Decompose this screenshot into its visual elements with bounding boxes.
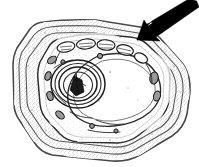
arrow-body (137, 0, 199, 41)
figure-root: Plant cell cross-section diagram (0, 0, 199, 167)
small-vesicle (97, 53, 102, 58)
nucleus (51, 60, 105, 108)
vacuole-speck (138, 100, 139, 101)
vacuole-speck (127, 87, 128, 88)
small-vesicle (90, 124, 95, 129)
plant-cell-diagram: Plant cell cross-section diagram (0, 0, 199, 167)
vacuole-speck (109, 71, 110, 72)
annotation-arrow (137, 0, 199, 41)
